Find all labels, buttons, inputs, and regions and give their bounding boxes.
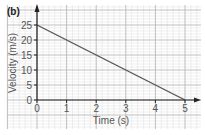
y-tick-label: 20 [21,35,33,46]
x-tick-label: 1 [64,103,70,114]
series-group [37,25,185,100]
y-axis-title: Velocity (m/s) [7,33,18,93]
y-tick-label: 0 [26,95,32,106]
x-axis-arrow-icon [194,98,201,103]
y-tick-label: 10 [21,65,33,76]
y-tick-label: 15 [21,50,33,61]
series-line-velocity [37,25,185,100]
panel-label: (b) [7,6,20,17]
velocity-time-chart: 0123450510152025 Time (s) Velocity (m/s)… [0,0,205,135]
x-tick-label: 3 [123,103,129,114]
y-axis-arrow-icon [35,4,40,12]
y-tick-label: 5 [26,80,32,91]
x-tick-label: 5 [182,103,188,114]
x-axis-title: Time (s) [93,115,129,126]
y-tick-label: 25 [21,20,33,31]
x-tick-label: 0 [34,103,40,114]
x-tick-label: 2 [93,103,99,114]
x-tick-label: 4 [153,103,159,114]
